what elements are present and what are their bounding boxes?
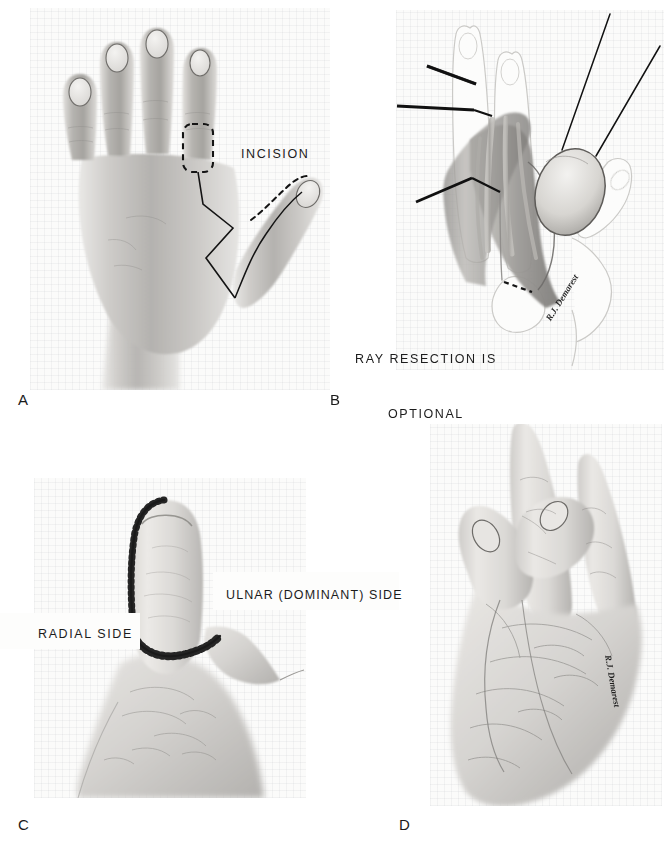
- incision-label: INCISION: [241, 145, 309, 163]
- panel-letter-d: D: [399, 817, 410, 832]
- panel-d-photo: R.J. Demarest: [430, 424, 662, 806]
- panel-letter-c: C: [18, 817, 29, 832]
- ray-resection-line-1: RAY RESECTION IS: [355, 350, 497, 368]
- pointer-lines: [562, 14, 660, 156]
- dorsal-hand-illustration: [30, 8, 330, 390]
- panel-letter-a: A: [18, 392, 29, 407]
- ulnar-side-label: ULNAR (DOMINANT) SIDE: [226, 586, 403, 604]
- panel-a-photo: [30, 8, 330, 390]
- pinch-grip-illustration: [430, 424, 662, 806]
- figure-container: INCISION A: [0, 0, 671, 851]
- radial-side-label: RADIAL SIDE: [38, 625, 133, 643]
- panel-letter-b: B: [330, 392, 341, 407]
- ray-resection-line-2: OPTIONAL: [355, 405, 497, 423]
